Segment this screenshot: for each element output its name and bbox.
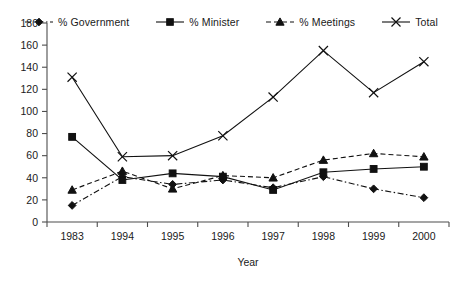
axes-layer [42, 23, 449, 227]
marker-square [119, 177, 126, 184]
x-tick-label: 1983 [60, 230, 84, 242]
marker-triangle [118, 167, 126, 174]
y-tick-label: 20 [26, 194, 38, 206]
series-line [72, 51, 424, 157]
series-total [68, 46, 429, 161]
y-tick-label: 40 [26, 172, 38, 184]
y-tick-label: 120 [20, 83, 38, 95]
x-tick-label: 1994 [111, 230, 135, 242]
marker-square [420, 163, 427, 170]
marker-diamond [68, 202, 76, 210]
marker-square [320, 169, 327, 176]
marker-cross [419, 57, 428, 66]
marker-cross [369, 88, 378, 97]
axis-labels-layer: 0204060801001201401601801983199419951996… [20, 17, 435, 268]
x-tick-label: 1995 [161, 230, 185, 242]
marker-triangle [369, 149, 377, 156]
x-axis-title: Year [237, 256, 259, 268]
y-tick-label: 160 [20, 39, 38, 51]
y-tick-label: 100 [20, 105, 38, 117]
marker-square [69, 133, 76, 140]
marker-diamond [420, 194, 428, 202]
chart-plot-area: 0204060801001201401601801983199419951996… [0, 0, 462, 285]
x-tick-label: 1997 [261, 230, 285, 242]
marker-cross [68, 73, 77, 82]
y-tick-label: 80 [26, 127, 38, 139]
series-layer [68, 46, 429, 209]
x-tick-label: 1999 [362, 230, 386, 242]
marker-square [270, 187, 277, 194]
marker-triangle [68, 186, 76, 193]
y-tick-label: 60 [26, 149, 38, 161]
marker-cross [319, 46, 328, 55]
x-tick-label: 1996 [211, 230, 235, 242]
marker-diamond [370, 185, 378, 193]
x-tick-label: 1998 [312, 230, 336, 242]
y-tick-label: 180 [20, 17, 38, 29]
marker-cross [269, 92, 278, 101]
marker-cross [218, 131, 227, 140]
x-tick-label: 2000 [412, 230, 436, 242]
chart-container: % Government% Minister% MeetingsTotal 02… [0, 0, 462, 285]
y-tick-label: 0 [32, 216, 38, 228]
y-tick-label: 140 [20, 61, 38, 73]
marker-square [169, 170, 176, 177]
marker-square [370, 166, 377, 173]
